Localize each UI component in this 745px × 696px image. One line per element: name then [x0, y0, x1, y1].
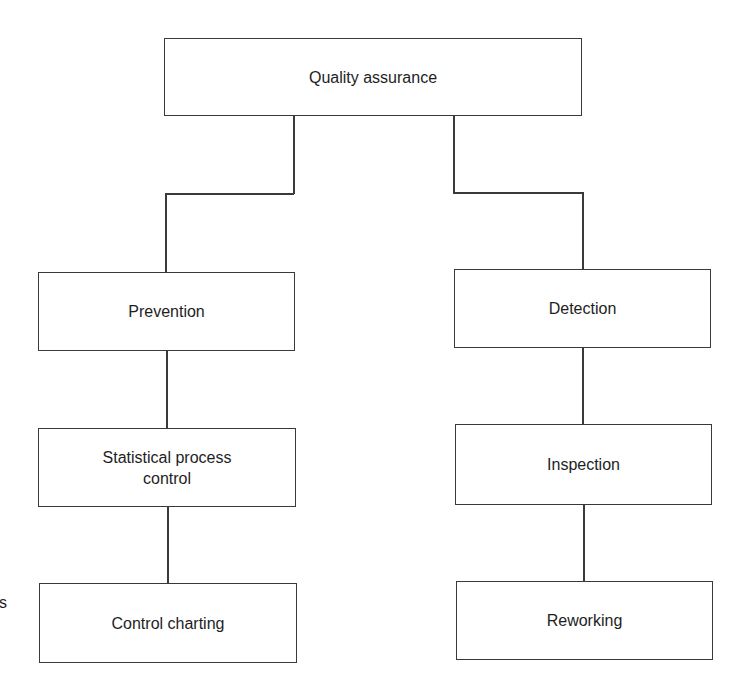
node-control-charting: Control charting: [39, 583, 297, 663]
node-label: Inspection: [547, 454, 620, 475]
node-reworking: Reworking: [456, 581, 713, 660]
connector-root-left-across: [165, 193, 294, 195]
node-label: Detection: [549, 298, 617, 319]
connector-spc-control-charting: [167, 506, 169, 584]
node-label: Statistical process control: [92, 447, 242, 489]
node-inspection: Inspection: [455, 424, 712, 505]
connector-root-right-across: [453, 192, 583, 194]
node-statistical-process-control: Statistical process control: [38, 428, 296, 507]
connector-root-right-drop: [582, 192, 584, 269]
node-label: Reworking: [547, 610, 623, 631]
node-label: Prevention: [128, 301, 205, 322]
connector-root-left-down: [293, 116, 295, 194]
node-label: Quality assurance: [309, 67, 437, 88]
connector-inspection-reworking: [583, 504, 585, 582]
cropped-text-fragment: s: [0, 594, 7, 612]
connector-detection-inspection: [582, 347, 584, 425]
connector-root-right-down: [453, 116, 455, 193]
node-prevention: Prevention: [38, 272, 295, 351]
node-label: Control charting: [112, 613, 225, 634]
node-quality-assurance: Quality assurance: [164, 38, 582, 116]
node-detection: Detection: [454, 269, 711, 348]
connector-prevention-spc: [166, 350, 168, 428]
connector-root-left-drop: [165, 193, 167, 272]
